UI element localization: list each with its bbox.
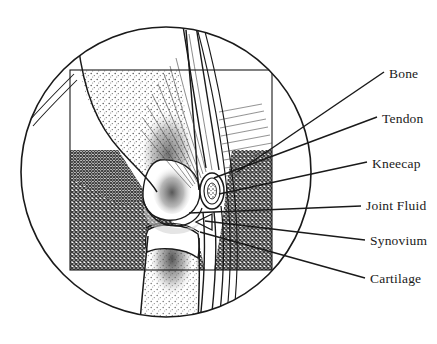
label-synovium: Synovium [370,233,427,249]
label-bone: Bone [389,66,418,82]
illustration-page: Bone Tendon Kneecap Joint Fluid Synovium… [0,0,437,344]
patella-marrow [208,183,217,199]
label-joint-fluid: Joint Fluid [366,198,426,214]
condyle-marrow [153,166,191,214]
leader-line-tendon [214,117,377,178]
label-cartilage: Cartilage [370,271,421,287]
label-tendon: Tendon [382,111,424,127]
knee-anatomy-figure [0,0,437,344]
label-kneecap: Kneecap [372,156,421,172]
